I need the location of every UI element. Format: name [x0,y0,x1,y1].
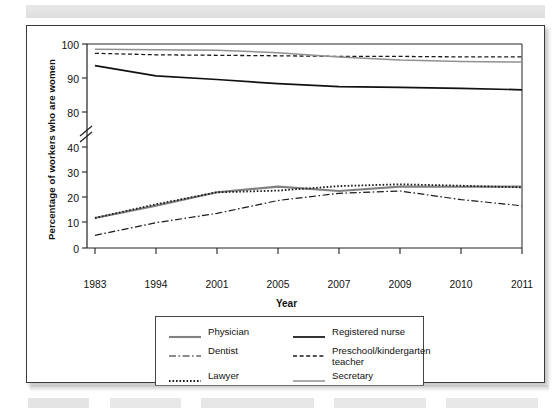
y-tick-marks [82,44,87,248]
y-tick-label: 40 [45,142,79,154]
page-caption-ghost-text [28,398,538,408]
series-line-registered-nurse [95,66,522,90]
x-tick-label: 2011 [502,279,542,290]
legend-key-secretary [292,373,326,385]
figure-card: Percentage of workers who are women 100 … [26,25,545,383]
x-tick-label: 1983 [75,279,115,290]
legend-label: Secretary [332,370,373,381]
legend-label: Physician [208,326,249,337]
series-line-secretary [95,49,522,62]
y-tick-label: 30 [45,167,79,179]
y-tick-label: 0 [45,243,79,255]
x-tick-label: 1994 [136,279,176,290]
chart-legend: Physician Registered nurse Dentist Presc… [155,316,424,386]
x-tick-label: 2007 [319,279,359,290]
legend-item-lawyer[interactable]: Lawyer [168,370,239,385]
data-series-layer [95,49,522,235]
legend-key-lawyer [168,373,202,385]
x-tick-label: 2001 [197,279,237,290]
legend-item-dentist[interactable]: Dentist [168,345,238,360]
legend-item-secretary[interactable]: Secretary [292,370,373,385]
legend-label: Dentist [208,345,238,356]
y-tick-labels: 100 90 80 40 30 20 10 0 [45,26,79,384]
legend-item-preschool-teacher[interactable]: Preschool/kindergarten teacher [292,345,431,368]
legend-item-physician[interactable]: Physician [168,326,249,341]
legend-label: Registered nurse [332,326,405,337]
y-tick-label: 90 [45,73,79,85]
card-drop-shadow [30,385,549,392]
legend-item-registered-nurse[interactable]: Registered nurse [292,326,405,341]
x-tick-label: 2005 [258,279,298,290]
legend-key-dentist [168,348,202,360]
x-tick-label: 2010 [441,279,481,290]
page-top-gray-band [26,5,545,18]
y-tick-label: 20 [45,192,79,204]
legend-label: Lawyer [208,370,239,381]
legend-key-physician [168,329,202,341]
y-tick-label: 100 [45,39,79,51]
series-line-physician [95,187,522,218]
legend-label: Preschool/kindergarten teacher [332,345,431,368]
legend-key-preschool-teacher [292,348,326,360]
legend-key-registered-nurse [292,329,326,341]
chart-plot-area: Percentage of workers who are women 100 … [27,26,546,384]
x-tick-label: 2009 [380,279,420,290]
y-tick-label: 10 [45,217,79,229]
x-axis-label: Year [27,298,546,309]
series-line-dentist [95,191,522,235]
x-tick-marks [95,248,522,254]
axis-break-marks [80,126,92,142]
y-tick-label: 80 [45,107,79,119]
